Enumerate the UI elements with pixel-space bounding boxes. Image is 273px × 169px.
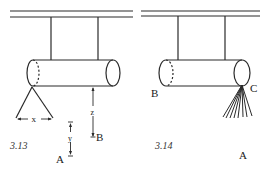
label-y: y	[68, 134, 72, 143]
label-A: A	[239, 149, 247, 161]
cylinder-left-end-back	[33, 60, 39, 86]
cylinder-left-end-front	[27, 60, 33, 86]
diagram-canvas: x z y B A 3.13 B C A 3.14	[0, 0, 273, 169]
x-arrowhead-right	[48, 118, 52, 121]
label-C: C	[250, 82, 257, 94]
z-arrowhead-top	[92, 87, 95, 91]
cylinder-left-end-front	[159, 60, 166, 86]
x-arrowhead-left	[17, 118, 21, 121]
label-x: x	[32, 114, 37, 124]
label-z: z	[91, 108, 95, 117]
label-B: B	[151, 87, 158, 99]
cylinder-right-end	[106, 60, 120, 86]
figure-3-13-labels: x z y B A 3.13	[9, 108, 103, 165]
cylinder-right-end	[234, 60, 250, 86]
figure-number-3-14: 3.14	[154, 140, 173, 151]
cylinder-left-end-back	[166, 60, 173, 86]
z-arrowhead-bottom	[92, 133, 95, 137]
label-B: B	[96, 131, 103, 143]
beam-edge-left	[16, 87, 32, 118]
light-ray-fan	[223, 85, 252, 118]
figure-number-3-13: 3.13	[9, 140, 28, 151]
figure-3-14	[141, 11, 260, 118]
y-arrowhead-bottom	[69, 151, 72, 155]
label-A: A	[56, 153, 64, 165]
